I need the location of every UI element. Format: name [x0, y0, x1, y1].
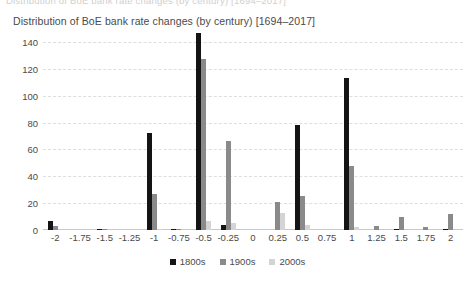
x-axis-tick-label: 1.25 — [367, 232, 386, 243]
bar-group — [364, 42, 389, 230]
x-axis-tick-label: 0 — [250, 232, 255, 243]
bar[interactable] — [102, 229, 107, 230]
bar-group — [191, 42, 216, 230]
bar-group — [315, 42, 340, 230]
bar[interactable] — [280, 213, 285, 230]
y-axis-tick-label: 40 — [4, 171, 38, 182]
y-axis: 020406080100120140 — [0, 42, 38, 230]
y-axis-tick-label: 60 — [4, 144, 38, 155]
bar[interactable] — [305, 225, 310, 230]
legend-item[interactable]: 2000s — [269, 256, 305, 267]
x-axis-tick-label: -2 — [51, 232, 59, 243]
bar[interactable] — [231, 223, 236, 230]
legend-swatch-icon — [220, 259, 226, 265]
x-axis-tick-label: 0.75 — [318, 232, 337, 243]
chart-container: Distribution of BoE bank rate changes (b… — [0, 0, 475, 281]
x-axis-tick-label: -0.75 — [168, 232, 190, 243]
bar-group — [339, 42, 364, 230]
bar[interactable] — [53, 226, 58, 230]
bar-group — [290, 42, 315, 230]
legend-label: 1800s — [180, 256, 206, 267]
bar[interactable] — [423, 227, 428, 230]
legend-label: 1900s — [230, 256, 256, 267]
bar[interactable] — [176, 229, 181, 230]
x-axis-tick-label: -0.5 — [195, 232, 211, 243]
bar[interactable] — [226, 141, 231, 230]
bar[interactable] — [157, 229, 162, 230]
clipped-header-text: Distribution of BoE bank rate changes (b… — [0, 0, 475, 11]
y-axis-tick-label: 120 — [4, 63, 38, 74]
x-axis-tick-label: -1.75 — [69, 232, 91, 243]
bar[interactable] — [448, 214, 453, 230]
bar-group — [216, 42, 241, 230]
x-axis-tick-label: -1.25 — [119, 232, 141, 243]
legend-label: 2000s — [279, 256, 305, 267]
chart-legend: 1800s1900s2000s — [0, 256, 475, 267]
bar-group — [92, 42, 117, 230]
bar-group — [167, 42, 192, 230]
clipped-header-label: Distribution of BoE bank rate changes (b… — [6, 0, 286, 6]
x-axis-tick-label: 0.25 — [268, 232, 287, 243]
bar-group — [241, 42, 266, 230]
bar[interactable] — [349, 166, 354, 230]
x-axis-tick-label: -1 — [150, 232, 158, 243]
bar-group — [414, 42, 439, 230]
bar[interactable] — [399, 217, 404, 230]
bar-group — [68, 42, 93, 230]
legend-item[interactable]: 1900s — [220, 256, 256, 267]
x-axis-tick-label: 0.5 — [296, 232, 309, 243]
bar[interactable] — [354, 227, 359, 230]
x-axis-tick-label: 2 — [448, 232, 453, 243]
bar-group — [389, 42, 414, 230]
y-axis-tick-label: 140 — [4, 37, 38, 48]
x-axis: -2-1.75-1.5-1.25-1-0.75-0.5-0.2500.250.5… — [43, 232, 463, 248]
legend-swatch-icon — [170, 259, 176, 265]
y-axis-tick-label: 0 — [4, 225, 38, 236]
legend-swatch-icon — [269, 259, 275, 265]
y-axis-tick-label: 100 — [4, 90, 38, 101]
bar-group — [117, 42, 142, 230]
bar-group — [43, 42, 68, 230]
bar[interactable] — [206, 221, 211, 230]
chart-title: Distribution of BoE bank rate changes (b… — [13, 15, 315, 27]
bar[interactable] — [374, 226, 379, 230]
x-axis-tick-label: 1.75 — [417, 232, 436, 243]
bar[interactable] — [201, 59, 206, 230]
x-axis-tick-label: 1.5 — [395, 232, 408, 243]
bar-group — [142, 42, 167, 230]
bar-group — [265, 42, 290, 230]
legend-item[interactable]: 1800s — [170, 256, 206, 267]
y-axis-tick-label: 20 — [4, 198, 38, 209]
x-axis-tick-label: -0.25 — [217, 232, 239, 243]
bar-group — [438, 42, 463, 230]
x-axis-tick-label: 1 — [349, 232, 354, 243]
plot-area — [43, 42, 463, 230]
y-axis-tick-label: 80 — [4, 117, 38, 128]
x-axis-tick-label: -1.5 — [97, 232, 113, 243]
bar[interactable] — [152, 194, 157, 230]
